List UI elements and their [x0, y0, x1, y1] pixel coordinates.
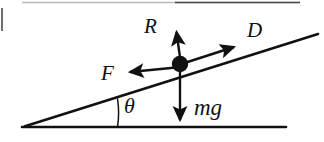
driving-force-vector — [186, 47, 234, 63]
angle-arc — [118, 99, 119, 128]
label-incline-angle: θ — [124, 95, 135, 117]
label-normal-reaction: R — [144, 16, 157, 37]
label-friction-force: F — [101, 63, 114, 84]
label-driving-force: D — [247, 20, 262, 41]
friction-force-vector — [130, 68, 176, 73]
figure-canvas: R D F mg θ — [0, 0, 324, 142]
particle-dot — [172, 56, 188, 72]
incline-line — [25, 34, 318, 126]
label-weight: mg — [194, 96, 222, 119]
inclined-plane-diagram — [0, 0, 324, 142]
